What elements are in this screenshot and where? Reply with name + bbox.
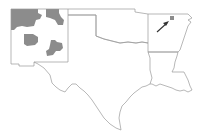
state-new-mexico <box>11 9 68 66</box>
shaded-area-arkansas-county <box>170 16 174 20</box>
shaded-area-nm-northwest <box>11 9 42 30</box>
shaded-area-nm-west-central <box>24 34 38 46</box>
border-texas <box>34 15 152 130</box>
arrow-annotation <box>157 21 169 32</box>
map <box>0 0 210 135</box>
border-louisiana <box>148 52 192 92</box>
border-oklahoma <box>68 9 148 43</box>
shaded-area-nm-south-central <box>46 40 63 56</box>
shaded-area-nm-north <box>46 9 64 25</box>
